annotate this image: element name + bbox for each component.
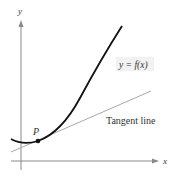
x-axis-label: x <box>162 156 167 166</box>
point-p-label: P <box>32 126 39 137</box>
y-axis: y <box>17 6 24 170</box>
point-p <box>36 139 41 144</box>
x-axis: x <box>11 156 167 166</box>
curve-label: y = f(x) <box>118 60 148 71</box>
tangent-label: Tangent line <box>106 115 156 126</box>
tangent-line-diagram: y x P y = f(x) Tangent line <box>0 0 178 180</box>
x-axis-arrow-icon <box>152 159 159 164</box>
y-axis-label: y <box>17 6 22 16</box>
y-axis-arrow-icon <box>19 20 24 27</box>
